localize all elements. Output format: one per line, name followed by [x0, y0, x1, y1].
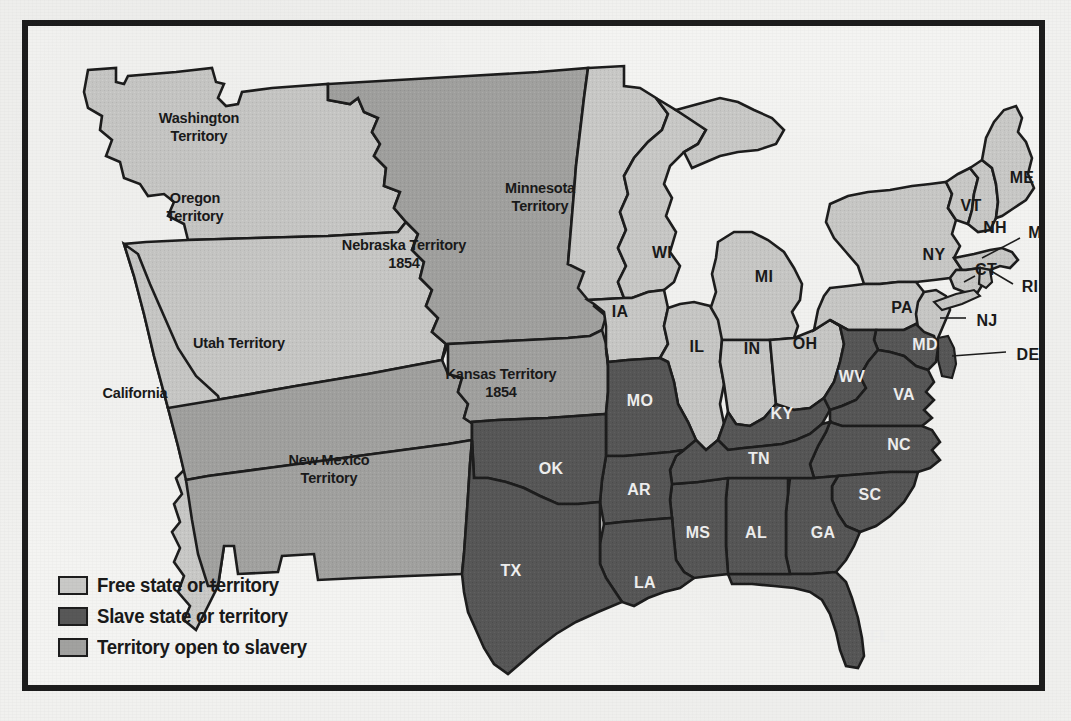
- state-label-wi: WI: [652, 244, 672, 261]
- state-label-fl: FL: [870, 628, 890, 645]
- state-shape-mi[interactable]: [710, 232, 802, 340]
- state-shape-fl[interactable]: [728, 572, 864, 668]
- state-label-ky: KY: [771, 405, 794, 422]
- territory-label-minnesota-territory-line1: Minnesota: [505, 180, 576, 196]
- state-label-ga: GA: [811, 524, 836, 541]
- legend-swatch-free: [58, 576, 88, 595]
- legend-label-slave: Slave state or territory: [97, 605, 288, 628]
- state-label-al: AL: [745, 524, 767, 541]
- legend-item-free[interactable]: Free state or territory: [58, 570, 323, 601]
- state-shape-de[interactable]: [938, 336, 956, 378]
- state-label-ny: NY: [923, 246, 946, 263]
- legend-label-free: Free state or territory: [97, 574, 279, 597]
- state-label-pa: PA: [891, 299, 913, 316]
- territory-label-california: California: [103, 385, 169, 401]
- territory-label-oregon-territory-line1: Oregon: [170, 190, 220, 206]
- state-shape-ny[interactable]: [826, 182, 962, 284]
- legend-label-open: Territory open to slavery: [97, 636, 307, 659]
- territory-label-washington-territory-line2: Territory: [171, 128, 228, 144]
- state-label-ri: RI: [1022, 278, 1039, 295]
- state-label-tn: TN: [748, 450, 770, 467]
- state-label-va: VA: [893, 386, 915, 403]
- territory-label-nebraska-territory-line2: 1854: [388, 255, 420, 271]
- state-label-md: MD: [912, 336, 937, 353]
- state-label-me: ME: [1010, 169, 1035, 186]
- legend-swatch-open: [58, 638, 88, 657]
- state-label-vt: VT: [960, 197, 981, 214]
- state-label-la: LA: [634, 574, 656, 591]
- legend-swatch-slave: [58, 607, 88, 626]
- legend-item-open[interactable]: Territory open to slavery: [58, 632, 323, 663]
- territory-label-kansas-territory-line1: Kansas Territory: [446, 366, 557, 382]
- state-label-il: IL: [690, 338, 705, 355]
- state-label-nc: NC: [887, 436, 911, 453]
- state-label-ct: CT: [975, 261, 997, 278]
- territory-label-washington-territory-line1: Washington: [159, 110, 239, 126]
- map-legend: Free state or territory Slave state or t…: [58, 570, 323, 663]
- state-label-mo: MO: [627, 392, 653, 409]
- territory-label-oregon-territory-line2: Territory: [167, 208, 224, 224]
- leader-line-de: [952, 352, 1006, 356]
- state-label-ar: AR: [627, 481, 651, 498]
- territory-label-kansas-territory-line2: 1854: [485, 384, 517, 400]
- territory-label-new-mexico-territory-line1: New Mexico: [289, 452, 370, 468]
- territory-label-minnesota-territory-line2: Territory: [512, 198, 569, 214]
- state-label-de: DE: [1017, 346, 1039, 363]
- state-label-nh: NH: [983, 219, 1007, 236]
- state-label-ma: MA: [1028, 224, 1039, 241]
- state-shape-nc[interactable]: [810, 422, 940, 478]
- state-label-ok: OK: [539, 460, 564, 477]
- state-label-sc: SC: [859, 486, 882, 503]
- state-label-ms: MS: [686, 524, 711, 541]
- state-label-wv: WV: [839, 368, 865, 385]
- territory-label-nebraska-territory-line1: Nebraska Territory: [342, 237, 466, 253]
- legend-item-slave[interactable]: Slave state or territory: [58, 601, 323, 632]
- state-label-in: IN: [744, 340, 761, 357]
- state-label-ia: IA: [612, 303, 629, 320]
- state-label-nj: NJ: [976, 312, 997, 329]
- territory-label-new-mexico-territory-line2: Territory: [301, 470, 358, 486]
- territory-label-utah-territory: Utah Territory: [193, 335, 285, 351]
- state-label-oh: OH: [793, 335, 818, 352]
- map-page: WashingtonTerritoryOregonTerritoryMinnes…: [0, 0, 1071, 721]
- state-label-tx: TX: [500, 562, 521, 579]
- state-label-mi: MI: [755, 268, 773, 285]
